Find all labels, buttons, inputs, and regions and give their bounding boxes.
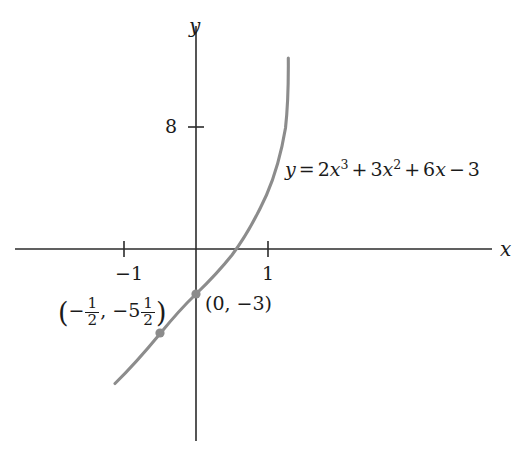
equation-term2-var: x (382, 158, 393, 180)
point-label-y-numerator: 1 (141, 296, 155, 312)
data-point-minus-half (155, 328, 164, 337)
point-label-y-fraction: 12 (141, 296, 155, 328)
point-label-open-paren: ( (58, 297, 69, 328)
graph-figure: y x −1 1 8 y=2x3+3x2+6x−3 (−12, −512) (0… (0, 0, 527, 454)
point-label-x-numerator: 1 (85, 296, 99, 312)
x-tick-label-neg1: −1 (115, 262, 143, 284)
point-label-y-whole: 5 (128, 299, 140, 321)
point-label-x-fraction: 12 (85, 296, 99, 328)
equation-plus-2: + (401, 158, 423, 180)
equation-minus: − (446, 158, 468, 180)
cubic-curve (115, 58, 288, 384)
point-label-y-intercept: (0, −3) (205, 292, 272, 314)
equation-term2-coeff: 3 (370, 158, 382, 180)
point-label-x-sign: − (69, 299, 85, 321)
equation-term3-var: x (435, 158, 446, 180)
x-axis-label: x (500, 237, 511, 261)
point-label-comma: , (100, 299, 106, 321)
point-label-close-paren: ) (156, 297, 167, 328)
equation-lhs: y (285, 158, 296, 180)
equation-term1-var: x (330, 158, 341, 180)
plot-canvas (0, 0, 527, 454)
y-tick-label-8: 8 (165, 115, 177, 137)
point-label-minus-half: (−12, −512) (58, 296, 166, 328)
equation-term2-exponent: 2 (393, 157, 401, 172)
x-tick-label-pos1: 1 (262, 262, 274, 284)
equation-annotation: y=2x3+3x2+6x−3 (285, 158, 480, 180)
y-axis-label: y (189, 14, 200, 38)
point-label-y-denominator: 2 (141, 312, 155, 329)
data-point-y-intercept (191, 289, 200, 298)
point-label-x-denominator: 2 (85, 312, 99, 329)
equation-equals: = (296, 158, 318, 180)
equation-term1-coeff: 2 (318, 158, 330, 180)
equation-plus-1: + (348, 158, 370, 180)
point-label-y-sign: − (112, 299, 128, 321)
equation-term3-coeff: 6 (423, 158, 435, 180)
equation-term4-constant: 3 (468, 158, 480, 180)
